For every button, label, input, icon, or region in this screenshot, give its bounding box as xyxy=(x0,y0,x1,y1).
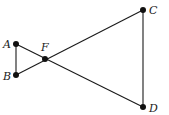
label-B: B xyxy=(2,70,11,83)
point-D xyxy=(140,104,146,110)
point-B xyxy=(13,72,19,78)
label-A: A xyxy=(2,38,11,51)
segments xyxy=(16,10,143,107)
label-D: D xyxy=(148,102,158,115)
point-C xyxy=(140,7,146,13)
diagram-canvas: ABFCD xyxy=(0,0,169,115)
points xyxy=(13,7,146,110)
point-A xyxy=(13,41,19,47)
geometry-figure: ABFCD xyxy=(0,0,169,115)
labels: ABFCD xyxy=(2,4,158,115)
segment-BC xyxy=(16,10,143,75)
point-F xyxy=(42,56,48,62)
segment-AD xyxy=(16,44,143,107)
label-C: C xyxy=(149,4,158,17)
label-F: F xyxy=(40,41,49,54)
